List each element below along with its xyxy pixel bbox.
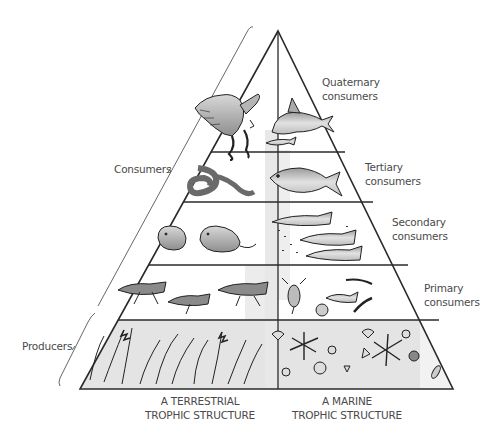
label-primary-consumers: Primary consumers xyxy=(424,282,480,309)
rodents-illustration xyxy=(158,226,256,252)
label-producers: Producers xyxy=(22,340,72,354)
label-primary-line1: Primary xyxy=(424,282,480,296)
label-marine-line1: A MARINE xyxy=(287,395,407,409)
zooplankton-illustration xyxy=(282,278,372,316)
producer-layer-fill xyxy=(60,320,460,390)
label-marine-line2: TROPHIC STRUCTURE xyxy=(287,409,407,423)
label-primary-line2: consumers xyxy=(424,296,480,310)
label-tertiary-line2: consumers xyxy=(365,175,421,189)
eagle-illustration xyxy=(195,94,260,160)
label-marine-structure: A MARINE TROPHIC STRUCTURE xyxy=(287,395,407,422)
label-terrestrial-line2: TROPHIC STRUCTURE xyxy=(140,409,260,423)
center-band-left xyxy=(265,130,278,390)
label-quaternary-line2: consumers xyxy=(322,90,380,104)
label-consumers: Consumers xyxy=(114,163,171,177)
label-secondary-line2: consumers xyxy=(392,230,448,244)
label-secondary-consumers: Secondary consumers xyxy=(392,216,448,243)
label-terrestrial-line1: A TERRESTRIAL xyxy=(140,395,260,409)
label-quaternary-line1: Quaternary xyxy=(322,76,380,90)
producer-right-fade xyxy=(420,320,460,390)
label-secondary-line1: Secondary xyxy=(392,216,448,230)
trophic-pyramid-diagram: Quaternary consumers Tertiary consumers … xyxy=(0,0,498,434)
label-tertiary-consumers: Tertiary consumers xyxy=(365,161,421,188)
label-terrestrial-structure: A TERRESTRIAL TROPHIC STRUCTURE xyxy=(140,395,260,422)
label-tertiary-line1: Tertiary xyxy=(365,161,421,175)
label-quaternary-consumers: Quaternary consumers xyxy=(322,76,380,103)
